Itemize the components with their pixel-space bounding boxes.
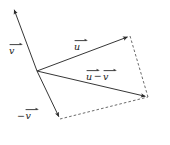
- vector-label-u-operand-glyph: u: [86, 72, 92, 82]
- vector-label-neg-v-glyph: v: [25, 111, 30, 121]
- vector-accent-group-v: v: [9, 42, 14, 56]
- dashed-right-edge: [130, 36, 148, 97]
- vector-v-line: [14, 10, 37, 71]
- vector-label-v-operand-glyph: v: [103, 72, 108, 82]
- dashed-bottom-edge: [60, 97, 148, 119]
- vector-neg-v-line: [37, 71, 59, 117]
- vector-label-u-glyph: u: [74, 42, 80, 52]
- vector-label-u: u: [74, 38, 80, 52]
- vector-label-v: v: [9, 42, 14, 56]
- vector-accent-group-u-operand: u: [86, 68, 92, 82]
- vector-lines: [14, 10, 145, 117]
- vector-accent-group-v-operand: v: [103, 68, 108, 82]
- vector-diagram-figure: v − v u u −: [0, 0, 170, 145]
- vector-label-neg-v: − v: [17, 107, 31, 121]
- subtraction-operator-glyph: −: [92, 71, 103, 81]
- vector-label-u-minus-v: u − v: [86, 68, 108, 82]
- vector-accent-group-neg-v: v: [25, 107, 30, 121]
- minus-sign-glyph: −: [17, 111, 25, 121]
- vector-u-line: [37, 37, 128, 71]
- vector-accent-group-u: u: [74, 38, 80, 52]
- vector-label-v-glyph: v: [9, 46, 14, 56]
- vector-diagram-canvas: [0, 0, 170, 145]
